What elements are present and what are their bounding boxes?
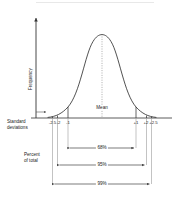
x-tick-label-minus-1: -1	[66, 120, 70, 125]
percent-of-total-line1: Percent	[24, 152, 40, 158]
x-tick-label-plus-1: +1	[134, 120, 139, 125]
x-tick-label-minus-2: -2	[57, 120, 61, 125]
y-axis-title: Frequency	[28, 68, 33, 90]
figure-canvas	[0, 0, 183, 199]
x-tick-label-minus-2-5: -2.5	[49, 120, 56, 125]
x-tick-label-plus-2-5: +2.5	[149, 120, 157, 125]
x-axis-title-line2: deviations	[7, 125, 28, 131]
x-tick-label-plus-2: +2	[144, 120, 149, 125]
interval-label-95: 95%	[96, 162, 108, 167]
interval-label-99: 99%	[96, 181, 108, 186]
interval-label-68: 68%	[96, 145, 108, 150]
x-axis-title-line1: Standard	[7, 119, 26, 125]
mean-label: Mean	[95, 105, 109, 110]
normal-distribution-figure: Frequency Standard deviations Percent of…	[0, 0, 183, 199]
percent-of-total-line2: of total	[24, 158, 38, 164]
